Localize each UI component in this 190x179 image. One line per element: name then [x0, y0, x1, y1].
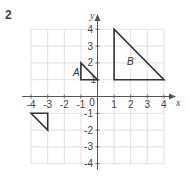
y-axis-arrow-icon	[95, 14, 101, 21]
y-tick-label: -3	[84, 141, 93, 152]
x-tick-label: 1	[111, 99, 117, 110]
y-tick-label: 2	[87, 57, 93, 68]
y-tick-label: 3	[87, 41, 93, 52]
triangle-b-label: B	[127, 56, 134, 67]
x-axis-arrow-icon	[169, 94, 176, 100]
origin-label: 0	[89, 97, 95, 108]
triangle-b	[114, 29, 164, 79]
x-tick-labels: -4 -3 -2 -1 1 2 3 4 0	[27, 97, 167, 110]
y-tick-label: -4	[84, 158, 93, 169]
triangle-a-label: A	[72, 67, 80, 78]
x-tick-label: 3	[145, 99, 151, 110]
x-tick-label: 4	[161, 99, 167, 110]
y-tick-label: -2	[84, 125, 93, 136]
x-tick-label: -2	[60, 99, 69, 110]
y-tick-label: -1	[84, 108, 93, 119]
x-tick-label: -3	[43, 99, 52, 110]
y-axis-label: y	[89, 10, 95, 21]
coordinate-plane: -4 -3 -2 -1 1 2 3 4 0 4 3 2 1 -1 -2 -3 -…	[0, 0, 190, 179]
triangle-unlabeled	[31, 113, 48, 130]
axes	[22, 20, 172, 170]
x-tick-label: -4	[27, 99, 36, 110]
x-tick-label: 2	[128, 99, 134, 110]
x-axis-label: x	[175, 97, 181, 108]
y-tick-label: 4	[87, 24, 93, 35]
